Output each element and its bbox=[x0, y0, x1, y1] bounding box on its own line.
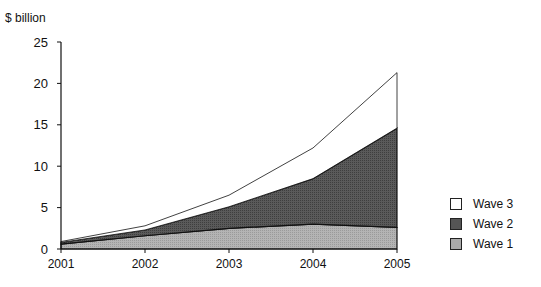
legend-item-wave-1: Wave 1 bbox=[450, 234, 513, 254]
x-tick-label: 2003 bbox=[216, 257, 243, 271]
legend: Wave 3 Wave 2 Wave 1 bbox=[450, 194, 513, 254]
y-tick-label: 15 bbox=[34, 117, 48, 132]
legend-swatch-wave-3 bbox=[450, 198, 462, 210]
legend-swatch-wave-1 bbox=[450, 238, 462, 250]
y-tick-label: 0 bbox=[41, 242, 48, 257]
legend-label: Wave 3 bbox=[473, 197, 513, 211]
y-tick-label: 25 bbox=[34, 35, 48, 50]
y-tick-label: 5 bbox=[41, 200, 48, 215]
x-tick-label: 2002 bbox=[132, 257, 159, 271]
y-tick-label: 20 bbox=[34, 76, 48, 91]
plot-areas bbox=[61, 73, 397, 249]
y-tick-label: 10 bbox=[34, 159, 48, 174]
x-tick-label: 2004 bbox=[300, 257, 327, 271]
x-tick-label: 2005 bbox=[384, 257, 411, 271]
legend-label: Wave 1 bbox=[473, 237, 513, 251]
legend-swatch-wave-2 bbox=[450, 218, 462, 230]
legend-item-wave-2: Wave 2 bbox=[450, 214, 513, 234]
legend-item-wave-3: Wave 3 bbox=[450, 194, 513, 214]
x-tick-label: 2001 bbox=[48, 257, 75, 271]
legend-label: Wave 2 bbox=[473, 217, 513, 231]
